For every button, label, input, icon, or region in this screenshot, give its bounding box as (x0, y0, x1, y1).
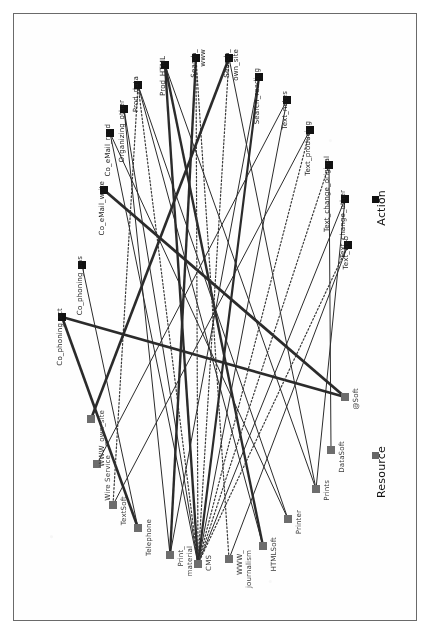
edge (138, 85, 198, 564)
node-label: Co_phoning_pas (76, 256, 84, 315)
node-label: Text_web (342, 236, 350, 269)
node-marker[interactable] (259, 542, 267, 550)
node-label: journalism (245, 550, 253, 588)
node-label: DataSoft (338, 441, 346, 473)
node-label: Telephone (145, 519, 153, 556)
node-marker[interactable] (134, 524, 142, 532)
node-label: Prints (323, 480, 331, 501)
node-label: @Soft (352, 388, 360, 410)
node-marker[interactable] (87, 415, 95, 423)
node-label: Co_eMail_write (98, 181, 106, 235)
node-label: material (186, 546, 194, 576)
legend-label-resource: Resource (375, 446, 388, 498)
node-label: Text_change_original (323, 156, 331, 232)
node-label: Text_producing (304, 121, 312, 176)
node-label: Text_notes (281, 91, 289, 130)
node-label: www (199, 49, 207, 67)
node-marker[interactable] (312, 485, 320, 493)
node-marker[interactable] (225, 555, 233, 563)
node-label: Printer (295, 510, 303, 534)
node-label: Prod_data (132, 76, 140, 112)
node-label: Search_reading (253, 68, 261, 124)
node-label: own_site (232, 49, 240, 81)
edge (198, 77, 259, 564)
node-label: Co_phoning_act (56, 308, 64, 366)
edge (229, 245, 348, 559)
node-label: Wire Service (104, 455, 112, 501)
node-marker[interactable] (341, 393, 349, 401)
node-label: Prod_HTML (159, 56, 167, 96)
node-marker[interactable] (109, 501, 117, 509)
node-marker[interactable] (166, 551, 174, 559)
node-label: TextSoft (120, 496, 128, 525)
node-label: CMS (205, 555, 213, 571)
figure-canvas: Co_phoning_actCo_phoning_pasCo_eMail_wri… (0, 0, 429, 639)
node-marker[interactable] (327, 446, 335, 454)
edge (198, 245, 348, 564)
edge (196, 58, 198, 564)
node-label: Co_eMail_read (104, 124, 112, 176)
node-label: Organizing_other (118, 100, 126, 162)
node-marker[interactable] (194, 560, 202, 568)
node-marker[interactable] (284, 515, 292, 523)
legend-label-action: Action (375, 190, 388, 226)
node-label: HTMLSoft (270, 537, 278, 572)
